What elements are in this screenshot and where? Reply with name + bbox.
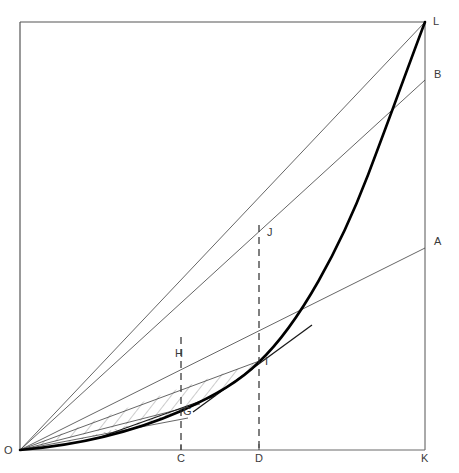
axis-ticks bbox=[181, 444, 259, 450]
chord-O-B bbox=[20, 80, 425, 450]
point-label-A: A bbox=[434, 236, 442, 247]
point-label-L: L bbox=[433, 16, 439, 27]
point-label-H: H bbox=[175, 348, 183, 359]
chord-O-A bbox=[20, 248, 425, 450]
point-label-I: I bbox=[265, 356, 268, 367]
point-label-O: O bbox=[4, 445, 13, 456]
point-label-G: G bbox=[183, 406, 192, 417]
figure-canvas bbox=[0, 0, 459, 473]
dashed-ordinates bbox=[181, 225, 259, 450]
point-label-D: D bbox=[255, 453, 263, 464]
point-label-J: J bbox=[267, 227, 273, 238]
geometric-figure: L B A J H I G O C D K bbox=[0, 0, 459, 473]
chord-O-I bbox=[20, 360, 262, 450]
point-label-B: B bbox=[434, 69, 442, 80]
point-label-C: C bbox=[177, 453, 185, 464]
point-label-K: K bbox=[421, 453, 429, 464]
